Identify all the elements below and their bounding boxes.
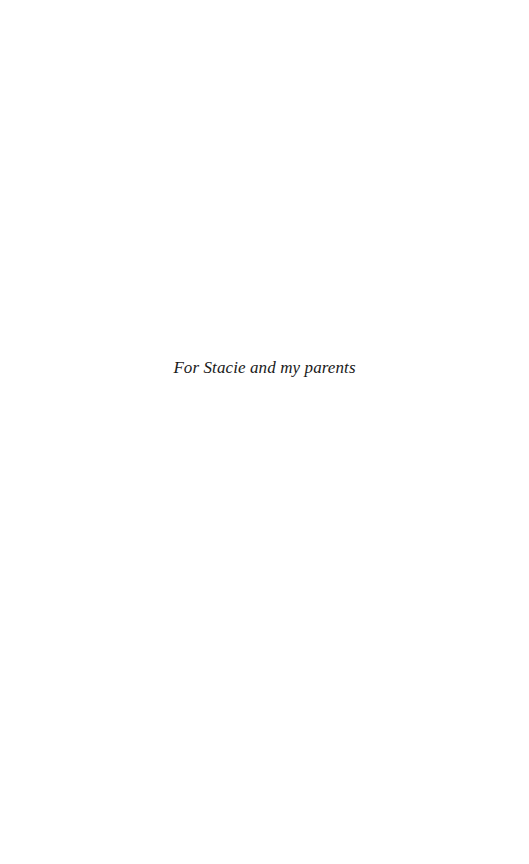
book-page: For Stacie and my parents [0, 0, 529, 864]
dedication-text: For Stacie and my parents [0, 358, 529, 378]
